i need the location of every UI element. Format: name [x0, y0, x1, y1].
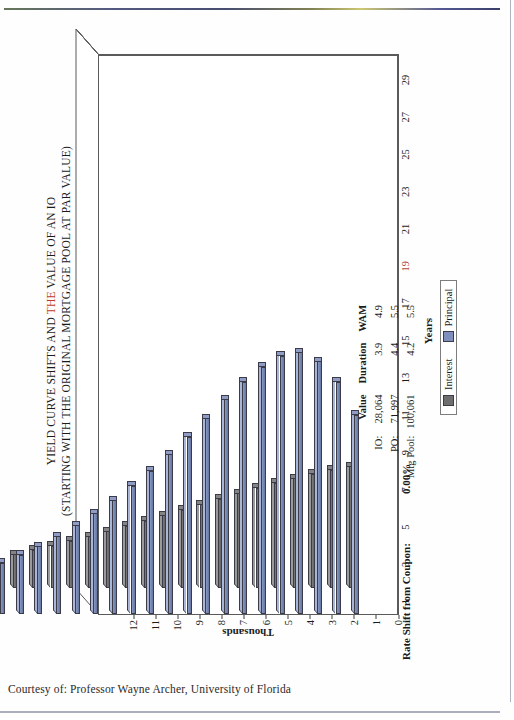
summary-row-value: 100,061 — [404, 384, 420, 429]
y-axis-tick-mark — [243, 615, 244, 619]
bar-face — [224, 400, 229, 615]
y-axis-tick: 2 — [348, 620, 359, 625]
bar-top-face — [351, 411, 354, 615]
y-axis-tick: 5 — [282, 620, 293, 625]
bar-face — [37, 546, 42, 614]
bar-top-face — [72, 521, 75, 614]
summary-row-label: IO: — [372, 429, 388, 478]
bar-face — [168, 454, 173, 614]
y-axis-tick: 6 — [260, 620, 271, 625]
y-axis-tick: 3 — [326, 620, 337, 625]
y-axis-tick-mark — [354, 615, 355, 619]
bar-principal-year-10 — [187, 437, 192, 614]
bar-end-cap — [183, 432, 191, 437]
bar-top-face — [47, 541, 50, 588]
bar-principal-year-18 — [37, 546, 42, 614]
legend-item-interest[interactable]: Interest — [443, 359, 454, 407]
x-axis-tick: 27 — [400, 112, 411, 123]
bar-principal-year-13 — [131, 486, 136, 614]
y-axis-tick-mark — [376, 615, 377, 619]
bar-face — [56, 536, 61, 614]
bar-end-cap — [16, 551, 24, 556]
bar-top-face — [34, 542, 37, 614]
bar-top-face — [122, 522, 125, 589]
bar-face — [205, 418, 210, 614]
bar-top-face — [332, 378, 335, 614]
legend-item-principal[interactable]: Principal — [443, 289, 454, 343]
bar-top-face — [271, 479, 274, 588]
summary-table-row: Mtg Pool:100,0614.25.5 — [404, 294, 420, 478]
chart-title-part-a: YIELD CURVE SHIFTS AND — [45, 314, 57, 465]
summary-row-duration: 4.2 — [404, 332, 420, 384]
bar-end-cap — [146, 466, 154, 471]
y-axis-tick-mark — [199, 615, 200, 619]
bar-end-cap — [239, 378, 247, 383]
bar-top-face — [159, 511, 162, 588]
summary-table-row: IO:28,0643.94.9 — [372, 294, 388, 478]
y-axis-tick-mark — [310, 615, 311, 619]
summary-header-value: Value — [356, 384, 372, 429]
x-axis-tick: 21 — [400, 224, 411, 235]
y-axis-tick: 11 — [150, 620, 161, 630]
bar-principal-year-20 — [0, 563, 5, 614]
bar-top-face — [10, 550, 13, 588]
summary-row-label: PO: — [388, 429, 404, 478]
bar-top-face — [90, 509, 93, 614]
bar-principal-year-8 — [224, 400, 229, 615]
bar-top-face — [66, 537, 69, 588]
bar-principal-year-7 — [242, 382, 247, 614]
bar-top-face — [29, 546, 32, 588]
summary-table-header-row: Value Duration WAM — [356, 294, 372, 478]
bar-face — [0, 563, 5, 614]
bar-top-face — [327, 466, 330, 589]
bar-end-cap — [314, 357, 322, 362]
y-axis-tick: 4 — [304, 620, 315, 625]
y-axis-tick-mark — [288, 615, 289, 619]
summary-table-row: PO:71,9974.45.5 — [388, 294, 404, 478]
x-axis-title: Years — [422, 11, 434, 651]
bar-face — [131, 486, 136, 614]
summary-row-label: Mtg Pool: — [404, 429, 420, 478]
bar-top-face — [85, 532, 88, 588]
page-bottom-rule — [0, 711, 500, 713]
bar-end-cap — [332, 378, 340, 383]
legend-swatch-principal-icon — [443, 332, 454, 343]
summary-row-duration: 4.4 — [388, 332, 404, 384]
bar-face — [93, 513, 98, 614]
y-axis-tick-mark — [221, 615, 222, 619]
bar-top-face — [290, 474, 293, 588]
bar-top-face — [165, 450, 168, 614]
bar-end-cap — [34, 542, 42, 547]
bar-top-face — [178, 505, 181, 588]
bar-end-cap — [127, 482, 135, 487]
bar-top-face — [215, 495, 218, 589]
summary-header-duration: Duration — [356, 332, 372, 384]
summary-row-value: 28,064 — [372, 384, 388, 429]
legend-label: Interest — [443, 359, 454, 391]
bar-principal-year-12 — [149, 471, 154, 614]
summary-row-wam: 5.5 — [388, 294, 404, 332]
bar-principal-year-15 — [93, 513, 98, 614]
bar-top-face — [127, 482, 130, 614]
bar-principal-year-6 — [261, 367, 266, 614]
bar-top-face — [252, 484, 255, 588]
bar-face — [75, 526, 80, 615]
summary-header-wam: WAM — [356, 294, 372, 332]
bar-series-group — [99, 55, 364, 614]
y-axis-tick-mark — [332, 615, 333, 619]
bar-principal-year-14 — [112, 500, 117, 614]
bar-top-face — [314, 357, 317, 614]
bar-principal-year-17 — [56, 536, 61, 614]
bar-end-cap — [258, 362, 266, 367]
bar-top-face — [141, 516, 144, 588]
bar-face — [187, 437, 192, 614]
bar-top-face — [221, 395, 224, 614]
bar-principal-year-11 — [168, 454, 173, 614]
summary-row-duration: 3.9 — [372, 332, 388, 384]
y-axis-tick: 9 — [194, 620, 205, 625]
bar-end-cap — [0, 558, 5, 563]
bar-end-cap — [53, 532, 61, 537]
bar-principal-year-4 — [298, 353, 303, 615]
page-credit: Courtesy of: Professor Wayne Archer, Uni… — [8, 683, 291, 695]
y-axis-title: Thousands — [188, 627, 308, 639]
